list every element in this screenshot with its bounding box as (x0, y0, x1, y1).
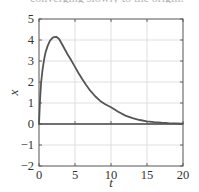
y-tick-label: 4 (28, 33, 35, 47)
y-tick-label: 5 (28, 12, 34, 26)
y-tick-label: −1 (21, 138, 34, 152)
x-tick-label: 20 (177, 168, 190, 182)
line-chart: 05101520−2−1012345 tx (0, 0, 199, 192)
y-axis-label: x (6, 89, 21, 96)
y-tick-label: 3 (28, 54, 34, 68)
axis-ticks: 05101520−2−1012345 (21, 12, 190, 182)
x-axis-label: t (109, 175, 113, 190)
y-tick-label: 2 (28, 75, 34, 89)
y-tick-label: −2 (21, 159, 34, 173)
x-tick-label: 15 (141, 168, 154, 182)
x-tick-label: 0 (36, 168, 42, 182)
y-tick-label: 1 (28, 96, 34, 110)
y-tick-label: 0 (28, 117, 34, 131)
x-tick-label: 5 (72, 168, 78, 182)
